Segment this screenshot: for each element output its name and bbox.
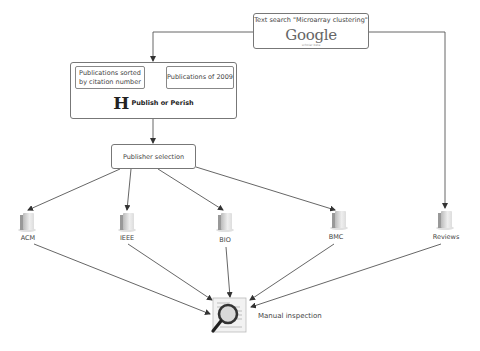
edge-google-to-reviews <box>369 32 445 208</box>
database-icon <box>332 209 348 231</box>
edge-acm-to-mi <box>34 244 210 314</box>
publish-or-perish-title: HPublish or Perish <box>71 92 236 113</box>
source-label-reviews: Reviews <box>426 233 466 241</box>
database-icon <box>120 211 136 233</box>
publish-or-perish-logo-icon: H <box>113 93 129 113</box>
edge-pubsel-to-bmc <box>196 167 335 210</box>
database-icon <box>20 211 36 233</box>
source-label-bmc: BMC <box>316 233 356 241</box>
option-sorted-by-citation: Publications sorted by citation number <box>75 66 145 89</box>
publish-or-perish-label: Publish or Perish <box>131 99 193 107</box>
edge-ieee-to-mi <box>128 244 212 300</box>
search-query-text: Text search "Microarray clustering" <box>254 16 368 24</box>
database-icon <box>218 211 234 233</box>
edge-bio-to-mi <box>226 247 230 297</box>
publish-or-perish-box: Publications sorted by citation number P… <box>70 62 237 119</box>
edge-reviews-to-mi <box>251 244 441 307</box>
source-label-ieee: IEEE <box>107 234 147 242</box>
edge-pubsel-to-acm <box>28 169 120 210</box>
edge-bmc-to-mi <box>250 244 334 300</box>
google-scholar-search-box: Text search "Microarray clustering" Goog… <box>253 13 369 49</box>
magnifier-document-icon <box>210 297 250 335</box>
option-publications-2009: Publications of 2009 <box>166 66 234 89</box>
edge-pubsel-to-bio <box>158 169 223 210</box>
source-label-acm: ACM <box>8 234 48 242</box>
manual-inspection-label: Manual inspection <box>258 312 322 320</box>
edge-pubsel-to-ieee <box>127 169 131 210</box>
publisher-selection-box: Publisher selection <box>111 144 196 169</box>
source-label-bio: BIO <box>205 236 245 244</box>
edge-google-to-pop <box>153 32 253 61</box>
google-logo: Google <box>254 26 368 44</box>
database-icon <box>438 209 454 231</box>
google-logo-subtitle: scholar beta <box>254 43 368 47</box>
